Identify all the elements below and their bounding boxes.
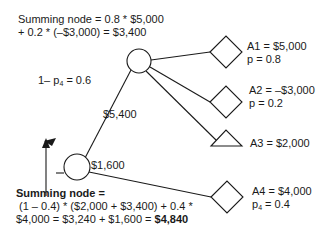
- lower-branch-value: $1,600: [91, 159, 125, 172]
- branch-a1: [151, 52, 210, 60]
- outcome-a4-probability: p4 = 0.4: [252, 198, 290, 214]
- bottom-summing-annotation-line1: (1 – 0.4) * ($2,000 + $3,400) + 0.4 *: [19, 200, 193, 213]
- upper-branch-probability: 1– p4 = 0.6: [38, 74, 91, 90]
- branch-a3: [146, 71, 218, 142]
- decision-tree-diagram: Summing node = 0.8 * $5,000 + 0.2 * (–$3…: [0, 0, 327, 235]
- a4-diamond-icon: [211, 181, 243, 213]
- outcome-a4-label: A4 = $4,000: [252, 185, 312, 198]
- upper-branch-value: $5,400: [103, 108, 137, 121]
- outcome-a2-label: A2 = –$3,000: [249, 84, 315, 97]
- branch-a4: [89, 172, 211, 197]
- a3-triangle-icon: [211, 130, 242, 146]
- bottom-summing-annotation-line2: $4,000 = $3,240 + $1,600 = $4,840: [16, 213, 188, 226]
- top-summing-annotation-line1: Summing node = 0.8 * $5,000: [18, 13, 164, 26]
- outcome-a1-label: A1 = $5,000: [247, 40, 307, 53]
- a1-diamond-icon: [210, 36, 242, 68]
- lower-chance-node: [64, 154, 90, 180]
- outcome-a1-probability: p = 0.8: [247, 53, 281, 66]
- outcome-a2-probability: p = 0.2: [249, 97, 283, 110]
- top-summing-annotation-line2: + 0.2 * (–$3,000) = $3,400: [18, 26, 146, 39]
- upper-chance-node: [127, 49, 151, 73]
- outcome-a3-label: A3 = $2,000: [250, 137, 310, 150]
- bottom-summing-annotation-title: Summing node =: [16, 187, 105, 200]
- final-result: $4,840: [155, 213, 189, 225]
- a2-diamond-icon: [210, 86, 242, 118]
